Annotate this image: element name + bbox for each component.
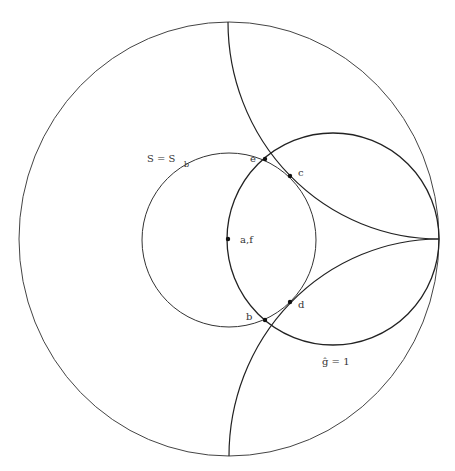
label-d: d (298, 299, 305, 310)
label-c: c (298, 167, 304, 178)
point-af (226, 237, 230, 241)
label-b: b (246, 311, 252, 322)
label-g-hat: ĝ = 1 (322, 356, 350, 367)
label-e: e (250, 153, 256, 164)
diagram-canvas: S = S b a,f e c d b ĝ = 1 (0, 0, 455, 471)
lower-geodesic-arc (229, 239, 439, 456)
label-s-sub: b (184, 160, 189, 169)
point-d (288, 300, 292, 304)
point-b (263, 318, 267, 322)
label-s-eq: S = S (147, 153, 176, 164)
upper-geodesic-arc (228, 22, 439, 239)
label-af: a,f (240, 234, 254, 245)
point-e (263, 157, 267, 161)
circle-g-hat (227, 133, 439, 345)
point-c (288, 174, 292, 178)
